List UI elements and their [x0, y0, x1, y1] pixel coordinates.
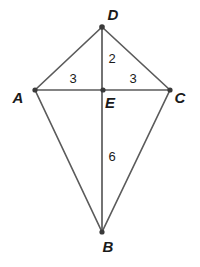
- vertex-label-e: E: [105, 94, 116, 111]
- vertex-dot-d: [99, 24, 105, 30]
- vertex-dot-c: [167, 87, 172, 92]
- vertex-dot-b: [99, 229, 104, 234]
- measure-label-ec: 3: [129, 71, 136, 86]
- segment-ab: [35, 90, 102, 232]
- vertex-label-d: D: [108, 6, 119, 23]
- geometry-figure: A B C D E 3 2 3 6: [0, 0, 200, 267]
- measure-label-eb: 6: [108, 149, 115, 164]
- vertex-dot-a: [32, 87, 37, 92]
- vertex-label-c: C: [175, 89, 187, 106]
- measure-label-ae: 3: [69, 71, 76, 86]
- vertex-label-a: A: [12, 89, 24, 106]
- vertex-dot-e: [100, 87, 105, 92]
- measure-label-de: 2: [108, 51, 115, 66]
- vertex-label-b: B: [103, 238, 114, 255]
- geometry-canvas: A B C D E 3 2 3 6: [0, 0, 200, 267]
